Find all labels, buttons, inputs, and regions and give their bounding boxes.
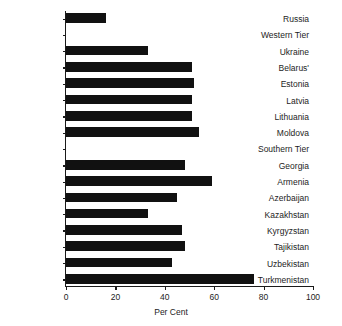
bar xyxy=(66,225,182,235)
chart-row: Latvia xyxy=(66,93,313,109)
chart-row: Southern Tier xyxy=(66,141,313,157)
chart-row: Azerbaijan xyxy=(66,190,313,206)
x-axis-tick-label: 0 xyxy=(64,292,69,302)
chart-row: Kyrgyzstan xyxy=(66,223,313,239)
bar xyxy=(66,78,194,88)
y-axis-tick xyxy=(63,149,67,150)
bar xyxy=(66,209,148,219)
chart-row: Ukraine xyxy=(66,44,313,60)
x-axis-title: Per Cent xyxy=(0,307,342,317)
x-axis-tick-label: 100 xyxy=(306,292,320,302)
category-label: Russia xyxy=(159,11,309,27)
bar-chart: RussiaWestern TierUkraineBelarus'Estonia… xyxy=(0,0,342,326)
category-label: Ukraine xyxy=(159,44,309,60)
x-axis-tick xyxy=(165,286,166,290)
bar xyxy=(66,258,172,268)
plot-area: RussiaWestern TierUkraineBelarus'Estonia… xyxy=(66,11,313,285)
bar xyxy=(66,111,192,121)
bar xyxy=(66,193,177,203)
bar xyxy=(66,160,185,170)
bar xyxy=(66,46,148,56)
category-label: Kazakhstan xyxy=(159,207,309,223)
chart-row: Belarus' xyxy=(66,60,313,76)
chart-row: Lithuania xyxy=(66,109,313,125)
bar xyxy=(66,176,212,186)
chart-row: Russia xyxy=(66,11,313,27)
x-axis-tick-label: 40 xyxy=(160,292,169,302)
category-label: Southern Tier xyxy=(159,141,309,157)
bar xyxy=(66,241,185,251)
x-axis-tick-label: 20 xyxy=(111,292,120,302)
chart-row: Estonia xyxy=(66,76,313,92)
chart-row: Turkmenistan xyxy=(66,272,313,288)
x-axis-tick-label: 60 xyxy=(209,292,218,302)
bar xyxy=(66,13,106,23)
chart-row: Moldova xyxy=(66,125,313,141)
bar xyxy=(66,95,192,105)
x-axis-tick-label: 80 xyxy=(259,292,268,302)
x-axis-tick xyxy=(313,286,314,290)
x-axis-tick xyxy=(214,286,215,290)
chart-row: Armenia xyxy=(66,174,313,190)
category-label: Azerbaijan xyxy=(159,190,309,206)
chart-row: Tajikistan xyxy=(66,239,313,255)
bar xyxy=(66,62,192,72)
bar xyxy=(66,127,199,137)
bar xyxy=(66,274,254,284)
chart-row: Western Tier xyxy=(66,27,313,43)
chart-row: Kazakhstan xyxy=(66,207,313,223)
category-label: Uzbekistan xyxy=(159,256,309,272)
x-axis-tick xyxy=(66,286,67,290)
chart-row: Georgia xyxy=(66,158,313,174)
y-axis-tick xyxy=(63,35,67,36)
x-axis-tick xyxy=(264,286,265,290)
x-axis-tick xyxy=(115,286,116,290)
category-label: Western Tier xyxy=(159,27,309,43)
chart-row: Uzbekistan xyxy=(66,256,313,272)
